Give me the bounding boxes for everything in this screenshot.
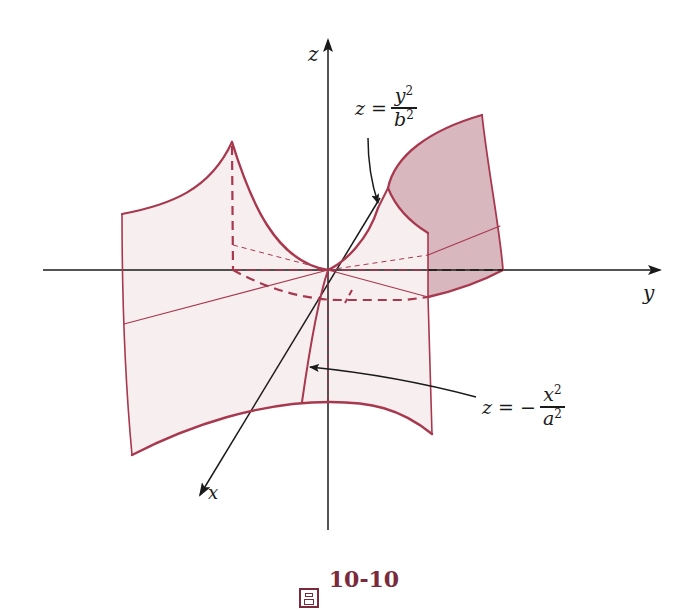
equation-lower-fraction: x2 a2 xyxy=(540,384,565,430)
x-axis-label: x xyxy=(208,484,218,502)
y-axis-label: y xyxy=(643,283,654,303)
saddle-surface xyxy=(122,115,503,455)
figure-canvas: z y x z = y2 b2 z = − x2 a2 圖10-10 xyxy=(0,0,698,610)
caption-prefix-glyph: 圖 xyxy=(299,588,319,608)
equation-upper-denominator: b2 xyxy=(391,109,417,131)
equation-lower-numerator: x2 xyxy=(540,384,564,406)
equation-lower: z = − x2 a2 xyxy=(482,384,565,430)
equation-upper: z = y2 b2 xyxy=(355,85,417,131)
equation-lower-denominator: a2 xyxy=(540,408,565,430)
equation-upper-numerator: y2 xyxy=(392,85,416,107)
equation-lower-lhs: z = − xyxy=(482,396,536,418)
equation-upper-lhs: z = xyxy=(355,97,387,119)
caption-number: 10-10 xyxy=(329,566,399,592)
upper-pointer-arrow xyxy=(368,138,378,203)
equation-upper-fraction: y2 b2 xyxy=(391,85,417,131)
z-axis-label: z xyxy=(308,44,319,64)
saddle-surface-diagram xyxy=(0,0,698,610)
figure-caption: 圖10-10 xyxy=(0,566,698,608)
